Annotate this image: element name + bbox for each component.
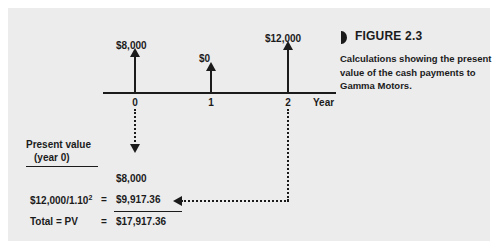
figure-title: FIGURE 2.3 (355, 29, 422, 43)
calc-row-1-value: $8,000 (116, 173, 147, 184)
present-value-heading-underline (26, 166, 98, 167)
axis-title-year: Year (313, 97, 334, 108)
calculation-total-rule (114, 211, 182, 212)
cash-flow-label-year-0: $8,000 (116, 40, 147, 51)
cash-flow-arrow-year-0 (134, 56, 136, 92)
discount-arrowhead-year-0 (130, 144, 140, 153)
calc-row-3-label: Total = PV (30, 216, 78, 227)
cash-flow-arrow-year-1 (210, 70, 212, 92)
discount-arrowhead-year-2 (173, 196, 182, 206)
axis-tick-2: 2 (281, 97, 295, 108)
present-value-heading-line1: Present value (26, 139, 91, 150)
calc-row-2-exponent: 2 (88, 194, 92, 201)
calc-row-2-expression: $12,000/1.102 (30, 194, 92, 206)
calc-row-2-equals: = (101, 194, 107, 205)
cash-flow-arrow-year-2 (287, 49, 289, 92)
present-value-heading: Present value (year 0) (26, 138, 91, 164)
cash-flow-label-year-2: $12,000 (265, 33, 301, 44)
calc-row-3-value: $17,917.36 (116, 216, 166, 227)
calc-row-2-value: $9,917.36 (116, 194, 161, 205)
discount-path-year-2-vertical (287, 109, 289, 201)
present-value-heading-line2: (year 0) (26, 151, 91, 164)
axis-tick-0: 0 (128, 97, 142, 108)
discount-path-year-0 (134, 109, 136, 146)
axis-tick-1: 1 (204, 97, 218, 108)
discount-path-year-2-horizontal (181, 200, 289, 202)
figure-caption-text: Calculations showing the present value o… (340, 52, 492, 93)
cash-flow-label-year-1: $0 (199, 53, 210, 64)
calc-row-2-expression-base: $12,000/1.10 (30, 195, 88, 206)
figure-panel: $8,000 $0 $12,000 0 1 2 Year Present val… (8, 8, 490, 241)
calc-row-3-equals: = (101, 216, 107, 227)
timeline-axis (103, 92, 336, 94)
